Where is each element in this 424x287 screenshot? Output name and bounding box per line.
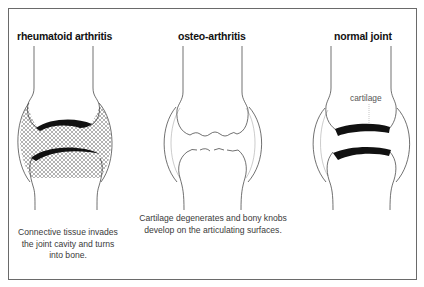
rheumatoid-caption-line-1: Connective tissue invades (13, 227, 123, 239)
osteo-caption-line-1: Cartilage degenerates and bony knobs (133, 213, 293, 225)
rheumatoid-title: rheumatoid arthritis (17, 30, 112, 42)
rheumatoid-caption-line-2: the joint cavity and turns (13, 239, 123, 251)
osteo-joint-drawing (164, 46, 262, 210)
rheumatoid-caption: Connective tissue invades the joint cavi… (13, 227, 123, 262)
osteo-caption: Cartilage degenerates and bony knobs dev… (133, 213, 293, 236)
cartilage-label: cartilage (350, 93, 382, 103)
connective-tissue-hatch (20, 104, 111, 178)
osteo-caption-line-2: develop on the articulating surfaces. (133, 225, 293, 237)
normal-cartilage (333, 124, 391, 160)
rheumatoid-joint-drawing (18, 46, 112, 210)
normal-title: normal joint (334, 30, 392, 42)
rheumatoid-caption-line-3: into bone. (13, 250, 123, 262)
osteo-title: osteo-arthritis (178, 30, 246, 42)
